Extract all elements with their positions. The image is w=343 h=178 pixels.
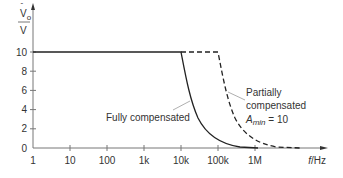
- leader-fully: [173, 101, 190, 110]
- svg-text:2: 2: [21, 123, 27, 134]
- annotation-partially-line1: Partially: [246, 87, 282, 98]
- chart-container: Vo ˆ V 0 2 4 6 8 10 1 10 100 1k 10k: [0, 0, 343, 178]
- series-fully-compensated: [33, 52, 258, 148]
- svg-text:4: 4: [21, 104, 27, 115]
- chart-svg: Vo ˆ V 0 2 4 6 8 10 1 10 100 1k 10k: [0, 0, 343, 178]
- hat-symbol: ˆ: [21, 1, 24, 10]
- annotation-fully-compensated: Fully compensated: [106, 112, 190, 123]
- y-axis-arrow-icon: [31, 3, 35, 10]
- y-label-denominator: V: [20, 25, 27, 36]
- svg-text:6: 6: [21, 85, 27, 96]
- x-axis-arrow-icon: [320, 146, 328, 150]
- svg-text:10: 10: [64, 155, 76, 166]
- svg-text:100: 100: [99, 155, 116, 166]
- y-axis-label: Vo ˆ V: [18, 1, 32, 36]
- svg-text:1M: 1M: [248, 155, 262, 166]
- annotation-partially-line2: compensated: [246, 100, 306, 111]
- svg-text:8: 8: [21, 66, 27, 77]
- leader-partial: [228, 92, 245, 100]
- y-label-numerator: Vo: [20, 8, 32, 22]
- x-tick-labels: 1 10 100 1k 10k 100k 1M: [30, 155, 262, 166]
- svg-text:1: 1: [30, 155, 36, 166]
- svg-text:10: 10: [16, 47, 28, 58]
- x-axis-label: f/Hz: [308, 155, 326, 166]
- y-tick-labels: 0 2 4 6 8 10: [16, 47, 28, 154]
- svg-text:100k: 100k: [207, 155, 230, 166]
- annotation-amin: Amin = 10: [245, 114, 289, 127]
- svg-text:1k: 1k: [139, 155, 151, 166]
- svg-text:10k: 10k: [173, 155, 190, 166]
- svg-text:0: 0: [21, 143, 27, 154]
